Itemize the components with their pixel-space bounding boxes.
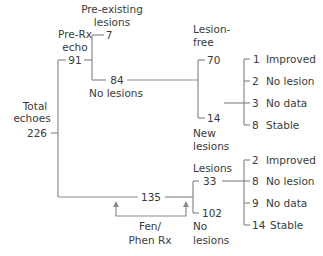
lesion-outcome-label: No lesion [266,175,314,187]
fen-phen-no-lesions-count: 102 [202,207,222,219]
lesions-count: 33 [203,175,216,187]
outcome-label: No lesion [266,75,314,87]
flow-diagram: Pre-existing lesions 7 Pre-Rx echo 91 To… [0,0,323,256]
treatment-bracket [116,205,186,216]
lesion-free-label: Lesion- [193,23,231,35]
outcome-count: 1 [253,53,260,65]
pre-existing-label-2: lesions [94,16,130,28]
new-lesions-count: 14 [207,112,221,124]
pre-rx-label: Pre-Rx [58,28,92,40]
pre-rx-label-2: echo [62,41,87,53]
arrow-up-icon [183,201,189,207]
outcome-label: No data [266,97,307,109]
lesion-outcome-count: 8 [252,175,259,187]
outcome-label: Improved [266,53,316,65]
new-lesions-label-2: lesions [193,140,229,152]
lesion-outcome-label: Improved [266,154,316,166]
outcome-count: 2 [252,75,259,87]
outcome-count: 8 [252,119,259,131]
lesion-free-label-2: free [193,36,214,48]
outcome-count: 3 [252,97,259,109]
lesions-label: Lesions [193,162,232,174]
pre-rx-count: 91 [68,54,81,66]
labels: Pre-existing lesions 7 Pre-Rx echo 91 To… [13,3,315,246]
lesion-outcome-label: No data [266,197,307,209]
fen-phen-no-lesions-label-2: lesions [193,234,229,246]
lesion-free-count: 70 [207,54,220,66]
lesion-outcome-count: 9 [252,197,259,209]
fen-phen-no-lesions-label: No [193,220,207,232]
no-lesions-label: No lesions [89,87,143,99]
total-count: 226 [27,127,47,139]
pre-existing-label: Pre-existing [81,3,143,15]
treatment-label: Fen/ [139,220,162,232]
lesion-outcome-label: Stable [270,219,303,231]
total-label-2: echoes [13,112,50,124]
arrow-up-icon [113,201,119,207]
fen-phen-count: 135 [141,191,161,203]
no-lesions-count: 84 [110,74,124,86]
lesion-outcome-count: 2 [252,154,259,166]
outcome-label: Stable [266,119,299,131]
lesion-outcome-count: 14 [252,219,266,231]
treatment-label-2: Phen Rx [129,234,172,246]
new-lesions-label: New [193,127,216,139]
total-label: Total [22,100,48,112]
pre-existing-count: 7 [106,29,113,41]
